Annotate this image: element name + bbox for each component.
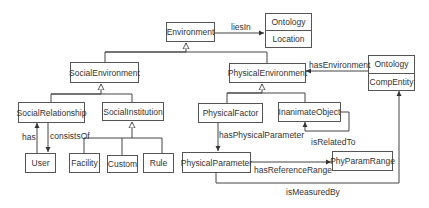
edge-gen-environment <box>105 43 267 63</box>
edge-gen-social-institution <box>84 122 162 155</box>
label-has-environment: hasEnvironment <box>309 60 370 70</box>
node-ontology-compentity: Ontology CompEntity <box>368 55 415 91</box>
node-social-environment: SocialEnvironment <box>70 62 139 83</box>
stereotype-label: Ontology <box>369 56 414 73</box>
node-rule: Rule <box>143 153 174 173</box>
label-is-related-to: isRelatedTo <box>311 137 355 147</box>
node-physical-factor: PhysicalFactor <box>198 103 263 123</box>
node-phy-param-range: PhyParamRange <box>332 151 393 171</box>
class-name: CompEntity <box>369 73 414 91</box>
node-social-relationship: SocialRelationship <box>18 102 85 123</box>
stereotype-label: Ontology <box>266 14 311 30</box>
node-physical-parameter: PhysicalParameter <box>182 152 251 173</box>
edge-gen-social-environment <box>51 84 132 102</box>
label-is-measured-by: isMeasuredBy <box>286 187 340 197</box>
node-environment: Environment <box>166 22 215 42</box>
node-facility: Facility <box>69 153 100 173</box>
edge-gen-physical-environment <box>227 84 305 103</box>
label-has-physical-parameter: hasPhysicalParameter <box>219 130 304 140</box>
label-has: has <box>22 132 36 142</box>
node-social-institution: SocialInstitution <box>102 102 164 121</box>
node-user: User <box>25 153 56 173</box>
label-has-reference-range: hasReferenceRange <box>254 165 332 175</box>
node-ontology-location: Ontology Location <box>265 13 312 48</box>
node-inanimate-object: InanimateObject <box>278 102 341 122</box>
class-name: Location <box>266 30 311 47</box>
label-lies-in: liesIn <box>231 22 251 32</box>
node-physical-environment: PhysicalEnvironment <box>229 63 306 83</box>
label-consists-of: consistsOf <box>50 131 90 141</box>
node-custom: Custom <box>107 155 138 173</box>
